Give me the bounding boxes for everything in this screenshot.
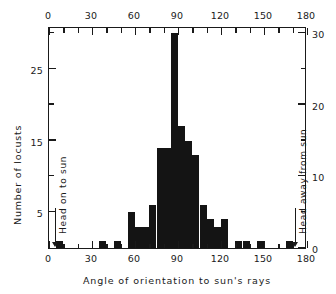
- histogram-bar: [178, 126, 185, 248]
- x-tick-label-top: 90: [171, 10, 184, 21]
- y-tick-label-right: 10: [312, 172, 325, 183]
- x-tick-label-top: 120: [211, 10, 230, 21]
- x-tick-minor-bottom: [106, 244, 107, 249]
- x-tick-label-top: 60: [128, 10, 141, 21]
- x-tick-minor-top: [121, 28, 122, 33]
- x-axis-title: Angle of orientation to sun's rays: [48, 275, 306, 286]
- histogram-bar: [214, 227, 221, 248]
- x-tick-minor-bottom: [63, 244, 64, 249]
- histogram-bars: [49, 28, 305, 248]
- x-tick-label-top: 0: [45, 10, 51, 21]
- x-tick-major-top: [264, 28, 265, 35]
- x-tick-major-bottom: [135, 241, 136, 248]
- y-tick-major-left: [49, 139, 56, 140]
- x-tick-minor-bottom: [121, 244, 122, 249]
- y-tick-label-left: 5: [22, 208, 43, 219]
- x-tick-minor-bottom: [207, 244, 208, 249]
- y-tick-major-left: [49, 68, 56, 69]
- x-tick-label-bottom: 90: [171, 253, 184, 264]
- histogram-bar: [185, 141, 192, 248]
- x-tick-label-top: 150: [254, 10, 273, 21]
- y-tick-major-right: [298, 32, 305, 33]
- x-tick-minor-top: [207, 28, 208, 33]
- x-tick-major-top: [135, 28, 136, 35]
- histogram-bar: [142, 227, 149, 248]
- x-tick-major-bottom: [49, 241, 50, 248]
- x-tick-label-bottom: 120: [211, 253, 230, 264]
- x-tick-major-bottom: [307, 241, 308, 248]
- x-tick-minor-bottom: [278, 244, 279, 249]
- x-tick-major-top: [92, 28, 93, 35]
- annotation-label: Head on to sun: [58, 156, 68, 234]
- x-tick-label-bottom: 0: [45, 253, 51, 264]
- x-tick-minor-bottom: [250, 244, 251, 249]
- histogram-bar: [171, 33, 178, 248]
- y-tick-minor-right: [301, 68, 306, 69]
- x-tick-minor-bottom: [192, 244, 193, 249]
- y-tick-label-right: 30: [312, 29, 325, 40]
- x-tick-minor-top: [63, 28, 64, 33]
- x-tick-major-top: [307, 28, 308, 35]
- histogram-bar: [257, 241, 264, 248]
- x-tick-minor-top: [164, 28, 165, 33]
- histogram-figure: Head on to sunHead away from sun 0030306…: [0, 0, 336, 294]
- y-tick-label-left: 15: [22, 136, 43, 147]
- y-tick-minor-left: [49, 103, 54, 104]
- plot-area: Head on to sunHead away from sun: [48, 27, 306, 249]
- x-tick-minor-top: [278, 28, 279, 33]
- y-tick-label-right: 0: [312, 244, 318, 255]
- x-tick-major-bottom: [221, 241, 222, 248]
- x-tick-major-bottom: [178, 241, 179, 248]
- x-tick-major-bottom: [92, 241, 93, 248]
- histogram-bar: [128, 212, 135, 248]
- histogram-bar: [164, 148, 171, 248]
- x-tick-label-bottom: 150: [254, 253, 273, 264]
- x-tick-minor-top: [250, 28, 251, 33]
- x-tick-minor-top: [235, 28, 236, 33]
- annotation-label: Head away from sun: [298, 129, 308, 234]
- y-tick-major-right: [298, 247, 305, 248]
- annotation-arrow-line: [295, 208, 296, 242]
- y-tick-label-right: 20: [312, 100, 325, 111]
- x-tick-minor-top: [78, 28, 79, 33]
- x-tick-minor-bottom: [78, 244, 79, 249]
- x-tick-minor-top: [106, 28, 107, 33]
- x-tick-minor-top: [192, 28, 193, 33]
- annotation-arrow-line: [55, 208, 56, 242]
- y-axis-title-left: Number of locusts: [12, 125, 23, 225]
- x-tick-major-top: [221, 28, 222, 35]
- x-tick-minor-top: [149, 28, 150, 33]
- x-tick-label-bottom: 60: [128, 253, 141, 264]
- histogram-bar: [200, 205, 207, 248]
- x-tick-major-top: [178, 28, 179, 35]
- histogram-bar: [149, 205, 156, 248]
- x-tick-minor-bottom: [149, 244, 150, 249]
- x-tick-minor-bottom: [164, 244, 165, 249]
- histogram-bar: [192, 155, 199, 248]
- histogram-bar: [157, 148, 164, 248]
- histogram-bar: [243, 241, 250, 248]
- annotation-arrow-head: [52, 242, 58, 247]
- histogram-bar: [114, 241, 121, 248]
- x-tick-minor-bottom: [235, 244, 236, 249]
- y-tick-label-left: 25: [22, 64, 43, 75]
- x-tick-label-top: 180: [297, 10, 316, 21]
- x-tick-minor-top: [293, 28, 294, 33]
- x-tick-label-top: 30: [85, 10, 98, 21]
- annotation-arrow-head: [292, 242, 298, 247]
- y-tick-minor-left: [49, 32, 54, 33]
- histogram-bar: [99, 241, 106, 248]
- y-tick-minor-left: [49, 175, 54, 176]
- x-tick-label-bottom: 30: [85, 253, 98, 264]
- x-tick-major-bottom: [264, 241, 265, 248]
- y-tick-major-right: [298, 103, 305, 104]
- x-tick-label-bottom: 180: [297, 253, 316, 264]
